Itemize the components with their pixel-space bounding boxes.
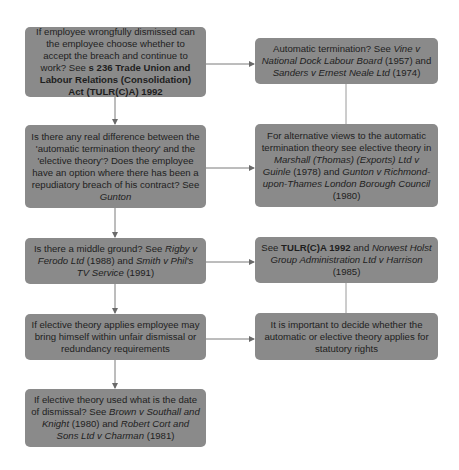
text-run: (1991) <box>124 267 154 278</box>
flow-box-text: If elective theory applies employee may … <box>31 319 200 355</box>
flow-box-date-of-dismissal-question: If elective theory used what is the date… <box>25 389 206 447</box>
text-run: Is there a middle ground? See <box>34 243 165 254</box>
flow-box-elective-theory-applies: If elective theory applies employee may … <box>25 314 206 360</box>
flow-box-text: If elective theory used what is the date… <box>31 394 200 442</box>
flow-box-text: Is there a middle ground? See Rigby v Fe… <box>31 243 200 279</box>
flow-box-text: Is there any real difference between the… <box>31 131 200 203</box>
flow-box-automatic-termination: Automatic termination? See Vine v Nation… <box>255 38 438 84</box>
flow-box-alternative-views: For alternative views to the automatic t… <box>255 124 438 207</box>
text-run: (1988) and <box>84 255 136 266</box>
text-run: TULR(C)A 1992 <box>281 242 350 253</box>
text-run: It is important to decide whether the au… <box>264 319 428 354</box>
text-run: (1981) <box>144 430 174 441</box>
flow-box-statutory-rights: It is important to decide whether the au… <box>255 313 438 360</box>
text-run: (1980) <box>333 190 361 201</box>
text-run: Gunton <box>100 191 131 202</box>
flow-box-text: For alternative views to the automatic t… <box>261 130 432 202</box>
text-run: (1974) <box>390 67 420 78</box>
flow-box-tulrca-norwest: See TULR(C)A 1992 and Norwest Holst Grou… <box>255 237 438 283</box>
flow-box-text: Automatic termination? See Vine v Nation… <box>261 43 432 79</box>
text-run: (1985) <box>333 266 361 277</box>
text-run: and <box>351 242 372 253</box>
text-run: If elective theory applies employee may … <box>32 319 200 354</box>
text-run: Is there any real difference between the… <box>31 131 199 190</box>
text-run: Sanders v Ernest Neale Ltd <box>273 67 390 78</box>
text-run: (1957) and <box>382 55 431 66</box>
text-run: (1978) and <box>291 166 343 177</box>
text-run: (1980) and <box>69 418 121 429</box>
flow-box-wrongful-dismissal-question: If employee wrongfully dismissed can the… <box>25 27 206 97</box>
text-run: Automatic termination? See <box>273 43 394 54</box>
flow-box-middle-ground-question: Is there a middle ground? See Rigby v Fe… <box>25 238 206 284</box>
flow-box-text: It is important to decide whether the au… <box>261 319 432 355</box>
flow-box-text: See TULR(C)A 1992 and Norwest Holst Grou… <box>261 242 432 278</box>
text-run: For alternative views to the automatic t… <box>262 130 432 153</box>
flow-box-theory-difference-question: Is there any real difference between the… <box>25 125 206 208</box>
flow-box-text: If employee wrongfully dismissed can the… <box>31 26 200 98</box>
text-run: See <box>261 242 281 253</box>
